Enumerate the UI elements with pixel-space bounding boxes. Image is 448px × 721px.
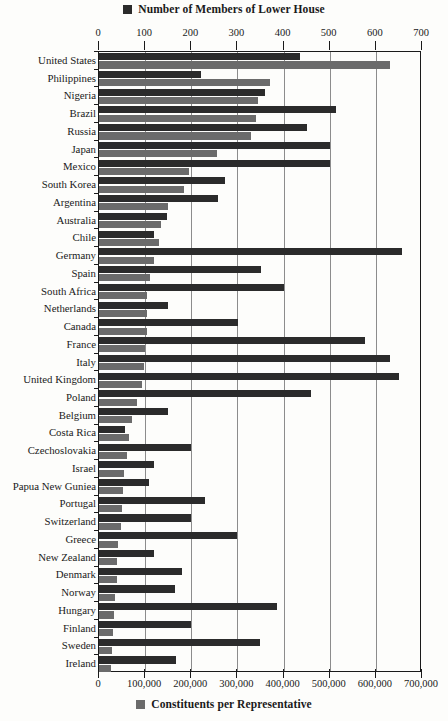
tick-label: 400 [275, 27, 291, 38]
bar-members-japan [99, 142, 330, 149]
bar-constituents-ireland [99, 665, 111, 672]
legend-bottom: Constituents per Representative [0, 698, 448, 710]
category-tick [94, 654, 98, 655]
category-tick [94, 495, 98, 496]
bar-row [99, 300, 420, 318]
tick-label: 200,000 [173, 678, 207, 689]
bar-members-costa-rica [99, 426, 125, 433]
category-label-sweden: Sweden [62, 640, 96, 651]
category-tick [94, 157, 98, 158]
bar-constituents-switzerland [99, 523, 121, 530]
bar-row [99, 283, 420, 301]
bar-row [99, 389, 420, 407]
bar-row [99, 371, 420, 389]
category-tick [94, 69, 98, 70]
category-label-israel: Israel [72, 463, 96, 474]
category-label-germany: Germany [56, 250, 96, 261]
category-tick [94, 122, 98, 123]
bar-row [99, 336, 420, 354]
category-label-brazil: Brazil [70, 108, 96, 119]
category-tick [94, 299, 98, 300]
tick-mark [98, 41, 99, 50]
bar-constituents-israel [99, 470, 124, 477]
plot-area [98, 51, 421, 672]
category-label-italy: Italy [76, 357, 96, 368]
category-label-poland: Poland [66, 392, 96, 403]
bar-constituents-russia [99, 132, 251, 139]
tick-mark [421, 41, 422, 50]
bar-constituents-norway [99, 594, 115, 601]
bar-row [99, 229, 420, 247]
bar-members-brazil [99, 106, 336, 113]
category-tick [94, 441, 98, 442]
tick-label: 700,000 [404, 678, 438, 689]
category-tick [94, 601, 98, 602]
bar-row [99, 158, 420, 176]
gray-square-swatch [136, 700, 145, 709]
bar-members-sweden [99, 639, 260, 646]
tick-mark [236, 669, 237, 678]
bar-members-norway [99, 585, 175, 592]
bar-constituents-belgium [99, 416, 132, 423]
category-tick [94, 530, 98, 531]
bar-constituents-sweden [99, 647, 112, 654]
category-label-japan: Japan [71, 144, 96, 155]
bar-chart: Number of Members of Lower House 0100200… [0, 0, 448, 721]
category-tick [94, 353, 98, 354]
bar-row [99, 407, 420, 425]
category-label-new-zealand: New Zealand [38, 552, 96, 563]
bar-members-italy [99, 355, 390, 362]
category-tick [94, 175, 98, 176]
bar-row [99, 354, 420, 372]
bar-row [99, 52, 420, 70]
category-label-chile: Chile [73, 232, 96, 243]
bar-row [99, 87, 420, 105]
bar-members-israel [99, 461, 154, 468]
bar-members-united-states [99, 53, 300, 60]
tick-label: 500,000 [312, 678, 346, 689]
tick-mark [144, 669, 145, 678]
category-tick [94, 140, 98, 141]
bar-constituents-papua-new-guniea [99, 487, 123, 494]
category-tick [94, 619, 98, 620]
bar-row [99, 247, 420, 265]
bar-constituents-new-zealand [99, 558, 117, 565]
bar-members-czechoslovakia [99, 444, 191, 451]
bar-constituents-denmark [99, 576, 117, 583]
bar-members-denmark [99, 568, 182, 575]
category-tick [94, 583, 98, 584]
bar-members-australia [99, 213, 167, 220]
bar-constituents-hungary [99, 611, 114, 618]
tick-label: 0 [95, 27, 100, 38]
bar-row [99, 123, 420, 141]
bar-row [99, 70, 420, 88]
category-label-france: France [67, 339, 96, 350]
category-label-portugal: Portugal [59, 498, 96, 509]
bar-members-papua-new-guniea [99, 479, 149, 486]
category-tick [94, 388, 98, 389]
bar-constituents-chile [99, 239, 159, 246]
category-tick [94, 282, 98, 283]
bar-members-nigeria [99, 89, 265, 96]
bar-constituents-australia [99, 221, 161, 228]
bar-constituents-costa-rica [99, 434, 129, 441]
tick-label: 600 [367, 27, 383, 38]
tick-label: 200 [182, 27, 198, 38]
bar-members-finland [99, 621, 191, 628]
category-label-denmark: Denmark [56, 569, 96, 580]
category-tick [94, 566, 98, 567]
category-tick [94, 104, 98, 105]
category-label-belgium: Belgium [59, 410, 96, 421]
bar-constituents-japan [99, 150, 217, 157]
bar-constituents-germany [99, 257, 154, 264]
bar-constituents-philippines [99, 79, 270, 86]
tick-label: 0 [95, 678, 100, 689]
category-tick [94, 228, 98, 229]
tick-label: 500 [321, 27, 337, 38]
bar-constituents-united-states [99, 61, 390, 68]
tick-mark [421, 669, 422, 678]
tick-mark [98, 669, 99, 678]
bar-members-poland [99, 390, 311, 397]
bar-row [99, 655, 420, 673]
bar-row [99, 425, 420, 443]
